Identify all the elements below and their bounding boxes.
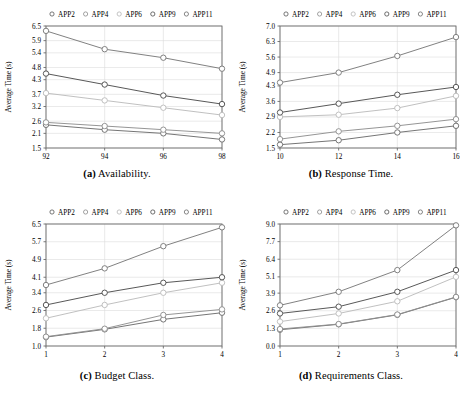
legend-label-app2: APP2	[292, 209, 309, 217]
legend-marker-app6	[117, 12, 121, 16]
data-point-marker	[102, 46, 107, 51]
data-point-marker	[395, 53, 400, 58]
y-axis-title: Average Time (s)	[4, 61, 13, 113]
data-point-marker	[277, 80, 282, 85]
chart-panel-b: APP2APP4APP6APP9APP111.52.22.93.64.34.95…	[234, 0, 468, 198]
data-point-marker	[336, 101, 341, 106]
subcaption-label-b: (b)	[309, 168, 322, 179]
chart-panel-a: APP2APP4APP6APP9APP111.52.12.63.23.74.34…	[0, 0, 234, 198]
x-tick-label: 1	[278, 351, 282, 359]
y-tick-label: 1.5	[32, 145, 41, 153]
series-app4	[277, 116, 458, 141]
y-tick-label: 2.2	[266, 129, 275, 137]
data-point-marker	[43, 316, 48, 321]
data-point-marker	[277, 319, 282, 324]
subcaption-text-d: Requirements Class.	[315, 370, 403, 381]
y-tick-label: 7.7	[266, 238, 275, 246]
y-tick-label: 2.9	[266, 113, 275, 121]
series-app11	[43, 225, 224, 288]
y-tick-label: 5.9	[32, 37, 41, 45]
data-point-marker	[219, 275, 224, 280]
series-app11	[277, 34, 458, 85]
legend-label-app2: APP2	[292, 11, 309, 19]
chart-legend: APP2APP4APP6APP9APP11	[284, 11, 447, 19]
data-point-marker	[277, 110, 282, 115]
x-tick-label: 96	[160, 153, 168, 161]
subcaption-c: (c) Budget Class.	[0, 370, 234, 381]
x-axis: 1234	[278, 346, 458, 359]
data-point-marker	[277, 136, 282, 141]
series-app6	[277, 93, 458, 119]
data-point-marker	[219, 101, 224, 106]
y-tick-label: 5.7	[32, 238, 41, 246]
y-axis-title: Average Time (s)	[4, 259, 13, 311]
series-app9	[277, 267, 458, 316]
legend-marker-app4	[318, 12, 322, 16]
chart-gridlines	[280, 26, 456, 148]
legend-marker-app11	[184, 12, 188, 16]
y-tick-label: 3.7	[32, 91, 41, 99]
data-point-marker	[277, 303, 282, 308]
subcaption-label-a: (a)	[83, 168, 96, 179]
legend-marker-app2	[50, 210, 54, 214]
data-point-marker	[336, 289, 341, 294]
chart-gridlines	[46, 224, 222, 346]
legend-label-app4: APP4	[326, 11, 343, 19]
data-point-marker	[161, 290, 166, 295]
series-app9	[277, 84, 458, 115]
data-point-marker	[219, 66, 224, 71]
data-point-marker	[43, 282, 48, 287]
data-point-marker	[219, 280, 224, 285]
x-tick-label: 3	[162, 351, 166, 359]
legend-marker-app2	[284, 210, 288, 214]
legend-marker-app2	[50, 12, 54, 16]
series-app2	[43, 310, 224, 340]
legend-marker-app4	[84, 12, 88, 16]
legend-label-app6: APP6	[125, 11, 142, 19]
data-point-marker	[161, 55, 166, 60]
legend-label-app11: APP11	[192, 11, 213, 19]
subcaption-label-d: (d)	[299, 370, 312, 381]
data-point-marker	[102, 266, 107, 271]
y-tick-label: 4.3	[32, 76, 41, 84]
legend-label-app9: APP9	[159, 11, 176, 19]
legend-marker-app2	[284, 12, 288, 16]
data-point-marker	[102, 302, 107, 307]
y-axis-title: Average Time (s)	[238, 259, 247, 311]
x-tick-label: 10	[276, 153, 284, 161]
chart-requirements-class: APP2APP4APP6APP9APP110.01.32.63.95.16.47…	[234, 198, 468, 368]
data-point-marker	[102, 98, 107, 103]
subcaption-text-b: Response Time.	[325, 168, 394, 179]
data-point-marker	[395, 312, 400, 317]
data-point-marker	[395, 289, 400, 294]
data-point-marker	[277, 311, 282, 316]
chart-budget-class: APP2APP4APP6APP9APP111.01.82.63.44.14.95…	[0, 198, 234, 368]
x-tick-label: 92	[42, 153, 50, 161]
chart-gridlines	[46, 26, 222, 148]
chart-legend: APP2APP4APP6APP9APP11	[50, 209, 213, 217]
series-app6	[43, 280, 224, 321]
series-line	[46, 74, 222, 105]
legend-marker-app9	[151, 210, 155, 214]
y-axis-title: Average Time (s)	[238, 61, 247, 113]
data-point-marker	[219, 137, 224, 142]
y-tick-label: 2.6	[32, 307, 41, 315]
plot-frame	[46, 224, 222, 346]
chart-legend: APP2APP4APP6APP9APP11	[284, 209, 447, 217]
series-line	[280, 87, 456, 113]
chart-legend: APP2APP4APP6APP9APP11	[50, 11, 213, 19]
legend-marker-app11	[184, 210, 188, 214]
subcaption-a: (a) Availability.	[0, 168, 234, 179]
chart-panel-d: APP2APP4APP6APP9APP110.01.32.63.95.16.47…	[234, 198, 468, 405]
data-point-marker	[453, 84, 458, 89]
y-tick-label: 3.4	[32, 289, 41, 297]
y-tick-label: 3.2	[32, 103, 41, 111]
series-line	[280, 37, 456, 82]
y-tick-label: 2.6	[266, 307, 275, 315]
subcaption-label-c: (c)	[80, 370, 92, 381]
data-point-marker	[336, 304, 341, 309]
data-point-marker	[219, 112, 224, 117]
data-point-marker	[336, 321, 341, 326]
data-point-marker	[336, 129, 341, 134]
y-tick-label: 9.0	[266, 221, 275, 229]
